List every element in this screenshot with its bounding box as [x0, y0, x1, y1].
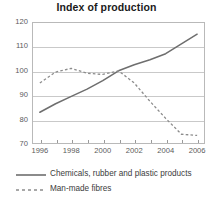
- legend-dashed-line-icon: [16, 185, 50, 195]
- y-tick-label: 100: [2, 67, 28, 75]
- chart-legend: Chemicals, rubber and plastic products M…: [16, 167, 213, 197]
- y-tick-label: 90: [2, 91, 28, 99]
- x-tick-label: 2004: [151, 147, 181, 155]
- legend-solid-line-icon: [16, 170, 50, 180]
- series-layer: [32, 22, 205, 144]
- x-tick-label: 1996: [25, 147, 55, 155]
- legend-item-chemicals-rubber-plastic: Chemicals, rubber and plastic products: [16, 167, 213, 182]
- x-tick-label: 1998: [56, 147, 86, 155]
- legend-item-man-made-fibres: Man-made fibres: [16, 182, 213, 197]
- y-tick-label: 110: [2, 42, 28, 50]
- series-line-chemicals-rubber-plastic: [40, 34, 197, 112]
- chart-container: Index of production 708090100110120 1996…: [0, 0, 213, 202]
- x-tick-label: 2002: [119, 147, 149, 155]
- series-line-man-made-fibres: [40, 68, 197, 135]
- x-tick-label: 2006: [182, 147, 212, 155]
- y-tick-label: 120: [2, 18, 28, 26]
- legend-label: Chemicals, rubber and plastic products: [50, 170, 192, 178]
- legend-label: Man-made fibres: [50, 185, 111, 193]
- x-tick-label: 2000: [88, 147, 118, 155]
- chart-title: Index of production: [0, 1, 213, 13]
- y-tick-label: 80: [2, 116, 28, 124]
